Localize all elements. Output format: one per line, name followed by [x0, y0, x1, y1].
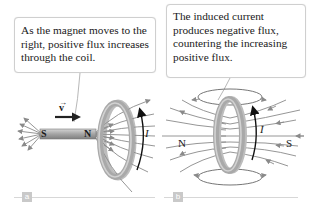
panel-b-label: b	[173, 192, 183, 202]
panel-a-rule	[14, 197, 155, 198]
magnet-south-pole-label: S	[41, 129, 47, 139]
current-arrow	[137, 110, 143, 170]
south-pole-label: S	[286, 138, 292, 149]
panel-b-rule	[164, 197, 298, 198]
callout-text: The induced current produces negative fl…	[173, 10, 299, 64]
panel-b: The induced current produces negative fl…	[156, 0, 312, 224]
north-pole-label: N	[178, 138, 186, 149]
callout-induced-current: The induced current produces negative fl…	[166, 4, 306, 78]
panel-a-label: a	[22, 192, 32, 202]
magnet-north-pole-label: N	[84, 129, 91, 139]
panel-a: As the magnet moves to the right, positi…	[0, 0, 156, 224]
callout-magnet-moves: As the magnet moves to the right, positi…	[14, 17, 156, 73]
current-arrow	[252, 108, 256, 160]
current-label: I	[145, 128, 149, 139]
current-label: I	[260, 124, 264, 135]
callout-text: As the magnet moves to the right, positi…	[21, 24, 149, 65]
velocity-vector-label: →v	[59, 103, 64, 113]
field-lines-left	[18, 118, 42, 150]
velocity-arrow	[55, 113, 81, 122]
